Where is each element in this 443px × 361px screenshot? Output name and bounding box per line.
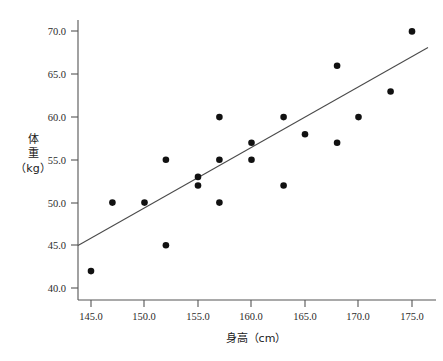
y-axis-ticks: 70.0 65.0 60.0 55.0 50.0 45.0 [48,26,78,294]
x-tick-label: 160.0 [239,311,263,322]
y-tick-70: 70.0 [48,26,78,37]
y-tick-40: 40.0 [48,283,78,294]
data-point [248,157,255,164]
data-point [387,88,394,95]
axes [78,20,436,300]
y-tick-label: 50.0 [48,198,66,209]
data-point [163,157,170,164]
scatter-chart: 70.0 65.0 60.0 55.0 50.0 45.0 [0,0,443,361]
y-axis-title-line-1: 体 [28,132,39,146]
y-tick-55: 55.0 [48,155,78,166]
data-point [195,182,202,189]
data-point [248,139,255,146]
data-point [216,157,223,164]
y-tick-label: 60.0 [48,112,66,123]
data-point [334,63,341,70]
data-point [302,131,309,138]
data-point [216,114,223,121]
data-point [195,174,202,181]
trend-line [78,48,428,246]
data-point [409,28,416,35]
x-axis-title: 身高（cm） [226,331,287,345]
data-point [163,242,170,249]
x-tick-155: 155.0 [186,300,210,322]
chart-canvas: 70.0 65.0 60.0 55.0 50.0 45.0 [0,0,443,361]
y-axis-title-line-2: 重 [28,146,39,160]
y-tick-label: 70.0 [48,26,66,37]
y-tick-label: 45.0 [48,240,66,251]
y-tick-45: 45.0 [48,240,78,251]
data-point [216,199,223,206]
x-tick-label: 165.0 [293,311,317,322]
y-tick-label: 65.0 [48,69,66,80]
data-point [334,139,341,146]
y-tick-65: 65.0 [48,69,78,80]
x-tick-label: 145.0 [79,311,103,322]
data-point [355,114,362,121]
x-tick-160: 160.0 [239,300,263,322]
x-tick-150: 150.0 [132,300,156,322]
y-axis-title-line-3: （kg） [15,162,50,175]
data-point [280,182,287,189]
x-tick-170: 170.0 [346,300,370,322]
x-tick-175: 175.0 [400,300,424,322]
x-tick-label: 170.0 [346,311,370,322]
x-tick-label: 150.0 [132,311,156,322]
data-point [109,199,116,206]
y-tick-60: 60.0 [48,112,78,123]
y-axis-title: 体 重 （kg） [15,132,50,175]
x-tick-145: 145.0 [79,300,103,322]
data-point [141,199,148,206]
data-points [88,28,416,274]
x-tick-label: 155.0 [186,311,210,322]
y-tick-50: 50.0 [48,198,78,209]
data-point [88,268,95,275]
x-tick-165: 165.0 [293,300,317,322]
x-axis-ticks: 145.0 150.0 155.0 160.0 165.0 170.0 [79,300,424,322]
data-point [280,114,287,121]
y-tick-label: 40.0 [48,283,66,294]
x-tick-label: 175.0 [400,311,424,322]
